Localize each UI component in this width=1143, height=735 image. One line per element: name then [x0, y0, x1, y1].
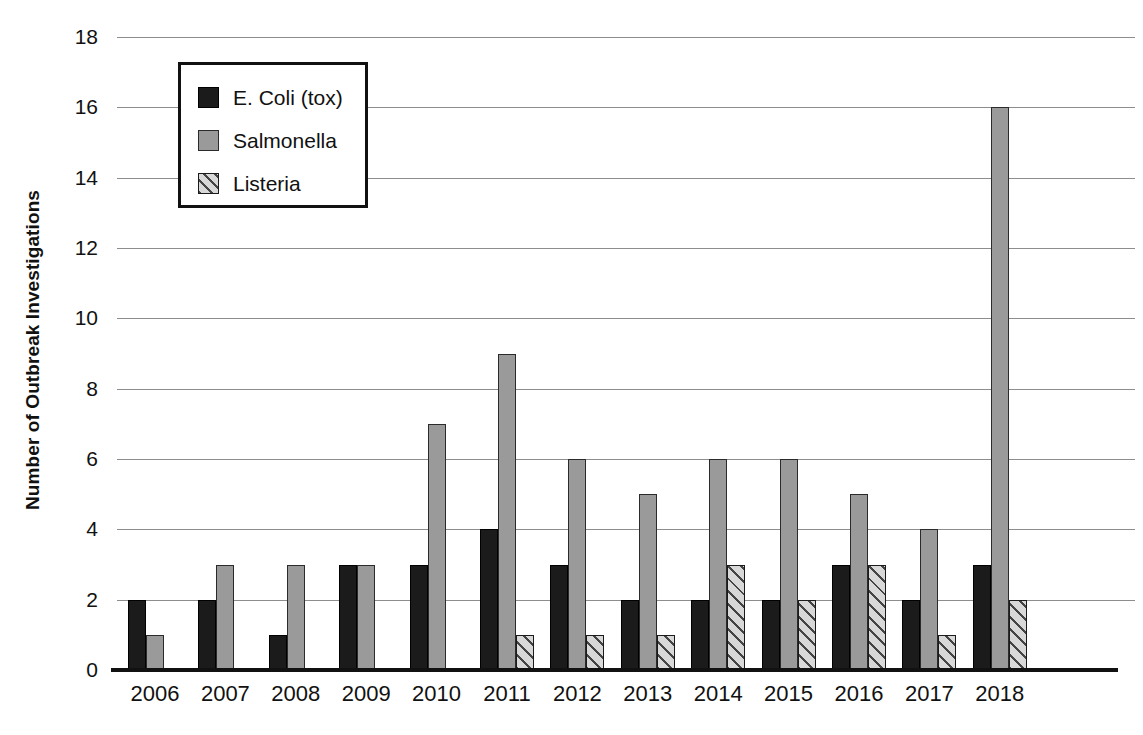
- solid-gray-square-icon: [198, 130, 219, 151]
- bar-listeria-2011: [516, 635, 534, 670]
- bar-listeria-2013: [657, 635, 675, 670]
- bar-ecoli-2016: [832, 565, 850, 671]
- bar-salmonella-2013: [639, 494, 657, 670]
- bar-ecoli-2008: [269, 635, 287, 670]
- bar-listeria-2017: [938, 635, 956, 670]
- y-tick-label-10: 10: [52, 307, 98, 328]
- bar-salmonella-2008: [287, 565, 305, 671]
- bar-ecoli-2015: [762, 600, 780, 670]
- y-axis-title: Number of Outbreak Investigations: [22, 120, 44, 580]
- bar-listeria-2016: [868, 565, 886, 671]
- bar-ecoli-2014: [691, 600, 709, 670]
- y-tick-label-16: 16: [52, 96, 98, 117]
- bar-ecoli-2009: [339, 565, 357, 671]
- y-tick-label-0: 0: [52, 659, 98, 680]
- legend-label-listeria: Listeria: [233, 173, 301, 194]
- bar-ecoli-2017: [902, 600, 920, 670]
- legend-item-salmonella: Salmonella: [198, 119, 365, 162]
- x-tick-label-2018: 2018: [955, 683, 1045, 705]
- legend: E. Coli (tox)SalmonellaListeria: [178, 62, 368, 208]
- legend-item-ecoli: E. Coli (tox): [198, 76, 365, 119]
- bar-ecoli-2010: [410, 565, 428, 671]
- bar-salmonella-2012: [568, 459, 586, 670]
- bar-ecoli-2013: [621, 600, 639, 670]
- bar-salmonella-2009: [357, 565, 375, 671]
- legend-label-salmonella: Salmonella: [233, 130, 337, 151]
- bar-salmonella-2011: [498, 354, 516, 671]
- bar-salmonella-2006: [146, 635, 164, 670]
- bar-salmonella-2007: [216, 565, 234, 671]
- y-tick-label-6: 6: [52, 448, 98, 469]
- bar-ecoli-2007: [198, 600, 216, 670]
- bar-ecoli-2006: [128, 600, 146, 670]
- hatched-square-icon: [198, 173, 219, 194]
- y-tick-label-14: 14: [52, 167, 98, 188]
- bar-salmonella-2017: [920, 529, 938, 670]
- y-tick-label-2: 2: [52, 589, 98, 610]
- y-tick-label-4: 4: [52, 518, 98, 539]
- bar-salmonella-2015: [780, 459, 798, 670]
- y-tick-label-12: 12: [52, 237, 98, 258]
- bar-ecoli-2012: [550, 565, 568, 671]
- bar-salmonella-2016: [850, 494, 868, 670]
- y-tick-label-8: 8: [52, 378, 98, 399]
- legend-label-ecoli: E. Coli (tox): [233, 87, 343, 108]
- x-axis-line: [111, 668, 1118, 672]
- bar-salmonella-2018: [991, 107, 1009, 670]
- bar-listeria-2014: [727, 565, 745, 671]
- bar-listeria-2018: [1009, 600, 1027, 670]
- solid-black-square-icon: [198, 87, 219, 108]
- bar-listeria-2012: [586, 635, 604, 670]
- legend-item-listeria: Listeria: [198, 162, 365, 205]
- bar-chart: Number of Outbreak Investigations 181614…: [0, 0, 1143, 735]
- y-tick-label-18: 18: [52, 26, 98, 47]
- bar-salmonella-2010: [428, 424, 446, 670]
- bar-ecoli-2018: [973, 565, 991, 671]
- bar-ecoli-2011: [480, 529, 498, 670]
- bar-listeria-2015: [798, 600, 816, 670]
- bar-salmonella-2014: [709, 459, 727, 670]
